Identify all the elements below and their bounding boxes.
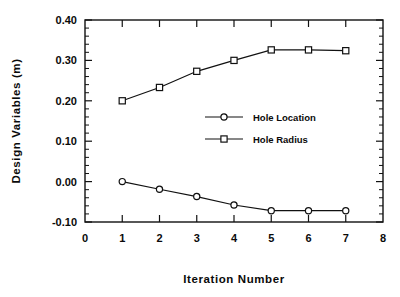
chart-figure: -0.100.000.100.200.300.40 012345678 Hole… — [0, 0, 400, 297]
data-point-marker — [156, 186, 162, 192]
data-point-marker — [119, 179, 125, 185]
y-tick-label: -0.10 — [52, 216, 77, 228]
legend-marker — [221, 114, 227, 120]
x-tick-label: 4 — [231, 232, 238, 244]
x-tick-label: 7 — [343, 232, 349, 244]
data-point-marker — [305, 47, 311, 53]
x-tick-label: 0 — [82, 232, 88, 244]
x-tick-label: 5 — [268, 232, 274, 244]
y-tick-label: 0.20 — [56, 95, 77, 107]
data-point-marker — [231, 202, 237, 208]
legend-entry: Hole Radius — [205, 134, 308, 145]
y-axis-title: Design Variables (m) — [10, 58, 22, 183]
data-point-marker — [268, 208, 274, 214]
data-point-marker — [194, 68, 200, 74]
y-axis-minor-ticks — [85, 28, 383, 214]
legend-marker — [221, 136, 227, 142]
data-series — [119, 179, 349, 214]
data-point-marker — [231, 57, 237, 63]
x-axis-tick-labels: 012345678 — [82, 232, 386, 244]
data-point-marker — [343, 208, 349, 214]
legend-label: Hole Location — [253, 112, 316, 123]
data-point-marker — [194, 193, 200, 199]
x-axis-title: Iteration Number — [183, 273, 285, 285]
legend-label: Hole Radius — [253, 134, 308, 145]
chart-legend: Hole LocationHole Radius — [205, 112, 316, 145]
x-tick-label: 6 — [305, 232, 311, 244]
x-tick-label: 8 — [380, 232, 386, 244]
data-series-group — [119, 47, 349, 214]
y-tick-label: 0.30 — [56, 54, 77, 66]
data-point-marker — [268, 47, 274, 53]
data-point-marker — [305, 208, 311, 214]
legend-entry: Hole Location — [205, 112, 316, 123]
data-point-marker — [343, 48, 349, 54]
y-tick-label: 0.00 — [56, 176, 77, 188]
y-tick-label: 0.10 — [56, 135, 77, 147]
data-point-marker — [156, 84, 162, 90]
x-tick-label: 2 — [156, 232, 162, 244]
x-tick-label: 3 — [194, 232, 200, 244]
y-axis-tick-labels: -0.100.000.100.200.300.40 — [52, 14, 77, 228]
y-tick-label: 0.40 — [56, 14, 77, 26]
line-chart: -0.100.000.100.200.300.40 012345678 Hole… — [0, 0, 400, 297]
data-series — [119, 47, 349, 104]
data-point-marker — [119, 98, 125, 104]
x-tick-label: 1 — [119, 232, 125, 244]
